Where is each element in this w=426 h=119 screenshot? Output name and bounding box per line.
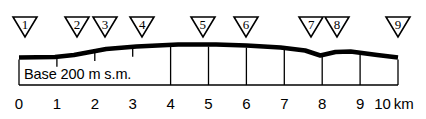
triangle-marker-shape	[385, 16, 411, 38]
triangle-marker-shape	[190, 16, 216, 38]
triangle-marker-icon	[93, 17, 117, 37]
axis-tick-value: 10	[374, 95, 391, 112]
triangle-marker-shape	[92, 16, 118, 38]
axis-tick-label-6: 6	[242, 95, 250, 112]
viewpoint-marker-7[interactable]: 7	[298, 16, 324, 38]
axis-tick-label-2: 2	[91, 95, 99, 112]
viewpoint-marker-8[interactable]: 8	[324, 16, 350, 38]
triangle-marker-icon	[299, 17, 323, 37]
viewpoint-marker-9[interactable]: 9	[385, 16, 411, 38]
viewpoint-marker-5[interactable]: 5	[190, 16, 216, 38]
viewpoint-marker-4[interactable]: 4	[129, 16, 155, 38]
triangle-marker-icon	[130, 17, 154, 37]
viewpoint-marker-6[interactable]: 6	[233, 16, 259, 38]
triangle-marker-icon	[13, 17, 37, 37]
axis-tick-label-0: 0	[15, 95, 23, 112]
axis-tick-label-8: 8	[318, 95, 326, 112]
axis-tick-label-3: 3	[129, 95, 137, 112]
axis-tick-label-1: 1	[53, 95, 61, 112]
axis-tick-label-9: 9	[356, 95, 364, 112]
triangle-marker-shape	[324, 16, 350, 38]
axis-tick-label-10: 10km	[374, 95, 414, 112]
viewpoint-marker-2[interactable]: 2	[64, 16, 90, 38]
triangle-marker-icon	[191, 17, 215, 37]
axis-unit-label: km	[394, 95, 414, 112]
triangle-marker-icon	[325, 17, 349, 37]
triangle-marker-icon	[234, 17, 258, 37]
viewpoint-marker-1[interactable]: 1	[12, 16, 38, 38]
axis-tick-label-5: 5	[204, 95, 212, 112]
triangle-marker-icon	[65, 17, 89, 37]
triangle-marker-shape	[12, 16, 38, 38]
axis-tick-label-4: 4	[166, 95, 174, 112]
triangle-marker-shape	[129, 16, 155, 38]
triangle-marker-icon	[386, 17, 410, 37]
base-elevation-label: Base 200 m s.m.	[24, 66, 131, 82]
triangle-marker-shape	[298, 16, 324, 38]
triangle-marker-shape	[64, 16, 90, 38]
triangle-marker-shape	[233, 16, 259, 38]
viewpoint-marker-3[interactable]: 3	[92, 16, 118, 38]
elevation-profile-figure: Base 200 m s.m. 123456789 012345678910km	[0, 0, 426, 119]
axis-tick-label-7: 7	[280, 95, 288, 112]
